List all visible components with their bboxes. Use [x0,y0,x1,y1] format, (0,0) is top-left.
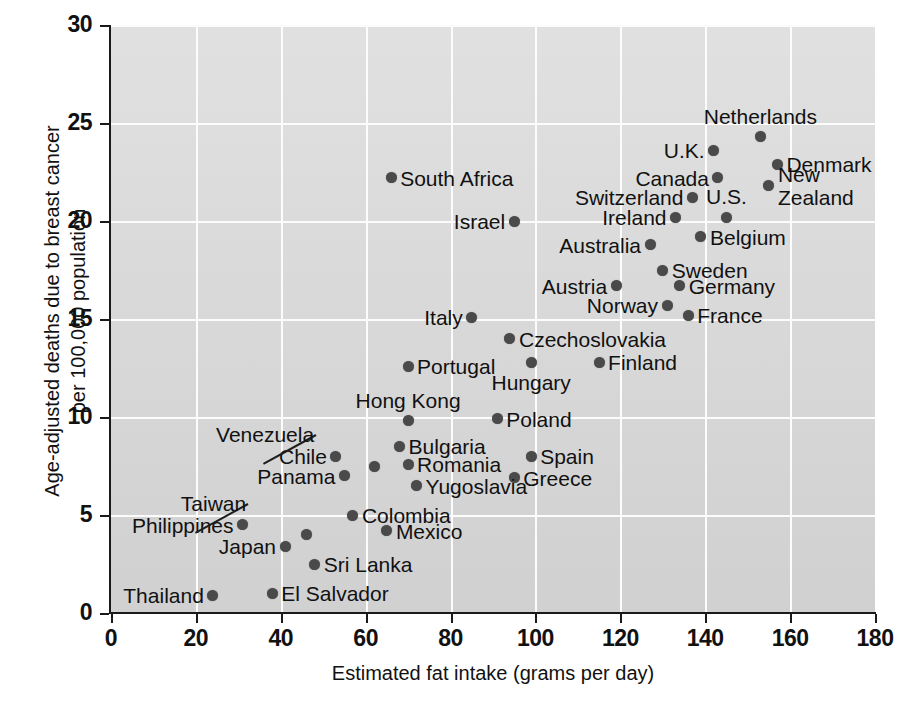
x-tick [535,614,537,623]
y-axis-title-line2: per 100,000 population [65,31,91,591]
data-point-label: Mexico [396,519,463,542]
y-tick [100,25,109,27]
y-axis-title: Age-adjusted deaths due to breast cancer… [39,31,91,591]
x-tick [281,614,283,623]
x-tick [790,614,792,623]
data-point-label: Venezuela [216,423,314,446]
data-point-label: South Africa [400,166,513,189]
data-point-label: Hungary [491,371,570,394]
data-point-label: Poland [506,407,571,430]
data-point-label: Israel [454,210,505,233]
x-tick-label: 120 [590,625,650,652]
data-point [301,529,312,540]
data-point-label: Ireland [602,206,666,229]
x-tick-label: 40 [251,625,311,652]
data-point-label: El Salvador [281,582,388,605]
data-point-label: Romania [417,453,501,476]
y-tick-label: 0 [48,599,92,626]
data-point-label: Portugal [417,355,495,378]
y-axis-title-line1: Age-adjusted deaths due to breast cancer [41,125,63,496]
y-tick [100,319,109,321]
data-point [721,212,732,223]
y-tick [100,613,109,615]
data-point-label: Taiwan [181,491,246,514]
x-tick [875,614,877,623]
data-point-label: Japan [219,535,276,558]
data-point-label: Australia [559,233,641,256]
x-tick-label: 20 [166,625,226,652]
data-point [369,461,380,472]
x-tick [620,614,622,623]
data-point [526,357,537,368]
y-tick [100,123,109,125]
y-axis-line [109,25,111,614]
data-point-label: U.K. [664,139,705,162]
data-point [309,559,320,570]
data-point-label: Italy [424,306,463,329]
x-tick [196,614,198,623]
data-point [466,312,477,323]
y-tick [100,221,109,223]
data-point-label: Yugoslavia [426,474,528,497]
data-point-label: NewZealand [778,163,854,209]
data-point [594,357,605,368]
x-axis-title: Estimated fat intake (grams per day) [111,662,875,685]
data-point-label: Germany [689,274,775,297]
data-point [347,510,358,521]
y-tick [100,417,109,419]
x-tick [366,614,368,623]
data-point [611,280,622,291]
x-tick [705,614,707,623]
data-point [670,212,681,223]
x-tick-label: 140 [675,625,735,652]
x-tick-label: 180 [845,625,905,652]
data-point-label: U.S. [706,185,747,208]
data-point-label: Finland [608,351,677,374]
x-tick-label: 0 [81,625,141,652]
scatter-plot-figure: 051015202530020406080100120140160180 Net… [0,0,922,707]
x-axis-line [110,612,876,614]
data-point-label: Panama [257,464,335,487]
x-tick-label: 80 [421,625,481,652]
data-point [662,300,673,311]
data-point-label: Sri Lanka [324,553,413,576]
data-point-label: Norway [587,294,658,317]
data-point [394,441,405,452]
data-point [280,541,291,552]
data-point [645,239,656,250]
x-tick [451,614,453,623]
data-point [403,361,414,372]
data-point [683,310,694,321]
data-point-label: Greece [523,466,592,489]
data-point [509,216,520,227]
data-point-label: Hong Kong [356,389,461,412]
data-point-label: Czechoslovakia [519,327,666,350]
data-point [687,192,698,203]
x-tick-label: 100 [505,625,565,652]
data-point-label: Belgium [710,225,786,248]
data-point [526,451,537,462]
data-point-label: Philippines [132,513,234,536]
data-point [403,459,414,470]
x-tick-label: 160 [760,625,820,652]
data-point [403,415,414,426]
data-point-label: France [697,304,762,327]
data-point [267,588,278,599]
data-point-label: Netherlands [704,105,817,128]
data-point [657,265,668,276]
x-tick-label: 60 [336,625,396,652]
data-point-label: Spain [540,445,594,468]
y-tick [100,515,109,517]
data-point [386,172,397,183]
gridline-horizontal [111,25,875,27]
x-tick [111,614,113,623]
data-point-label: Thailand [123,584,204,607]
